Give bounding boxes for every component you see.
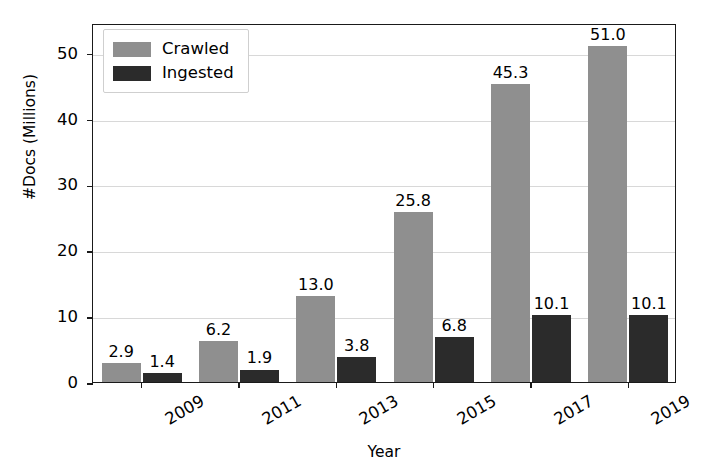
- y-tick-label: 10: [57, 309, 78, 326]
- legend-swatch-ingested: [113, 66, 151, 81]
- x-tick-mark: [141, 382, 143, 388]
- y-tick-mark: [87, 186, 93, 188]
- bar-value-label: 3.8: [324, 338, 389, 354]
- bar-ingested-2015: [435, 337, 474, 382]
- x-tick-label: 2013: [357, 393, 402, 428]
- x-axis-label: Year: [92, 443, 676, 461]
- x-tick-mark: [433, 382, 435, 388]
- bar-value-label: 25.8: [381, 193, 446, 209]
- x-tick-label: 2017: [552, 393, 597, 428]
- bar-ingested-2017: [532, 315, 571, 382]
- chart-legend: Crawled Ingested: [103, 29, 249, 93]
- legend-label-crawled: Crawled: [162, 41, 229, 58]
- bar-ingested-2019: [629, 315, 668, 382]
- bar-ingested-2009: [143, 373, 182, 382]
- bar-value-label: 1.9: [227, 350, 292, 366]
- y-tick-mark: [87, 251, 93, 253]
- bar-value-label: 1.4: [130, 354, 195, 370]
- legend-label-ingested: Ingested: [162, 65, 234, 82]
- x-tick-label: 2015: [454, 393, 499, 428]
- x-tick-mark: [628, 382, 630, 388]
- y-tick-label: 20: [57, 243, 78, 260]
- x-tick-mark: [530, 382, 532, 388]
- bar-crawled-2015: [394, 212, 433, 382]
- bar-value-label: 51.0: [575, 27, 640, 43]
- bar-value-label: 10.1: [616, 296, 681, 312]
- y-tick-mark: [87, 383, 93, 385]
- y-tick-label: 0: [68, 375, 79, 392]
- bar-crawled-2019: [588, 46, 627, 382]
- bar-value-label: 45.3: [478, 65, 543, 81]
- y-axis-tick-labels: 01020304050: [40, 24, 86, 383]
- bar-chart-figure: #Docs (Millions) 01020304050 2.91.46.21.…: [0, 0, 707, 475]
- plot-area: 2.91.46.21.913.03.825.86.845.310.151.010…: [92, 24, 676, 383]
- legend-swatch-crawled: [113, 42, 151, 57]
- x-tick-label: 2011: [260, 393, 305, 428]
- x-tick-mark: [336, 382, 338, 388]
- bar-value-label: 10.1: [519, 296, 584, 312]
- y-tick-mark: [87, 120, 93, 122]
- x-tick-mark: [238, 382, 240, 388]
- bar-value-label: 13.0: [283, 277, 348, 293]
- legend-item-crawled: Crawled: [113, 37, 234, 61]
- bar-value-label: 6.8: [422, 318, 487, 334]
- bar-value-label: 6.2: [186, 322, 251, 338]
- x-tick-label: 2009: [162, 393, 207, 428]
- bar-crawled-2017: [491, 84, 530, 382]
- y-tick-label: 30: [57, 177, 78, 194]
- y-tick-mark: [87, 317, 93, 319]
- x-tick-label: 2019: [649, 393, 694, 428]
- bar-ingested-2011: [240, 370, 279, 383]
- y-tick-label: 40: [57, 111, 78, 128]
- bar-ingested-2013: [337, 357, 376, 382]
- y-axis-label: #Docs (Millions): [21, 57, 39, 217]
- x-axis-tick-labels: 200920112013201520172019: [92, 389, 676, 439]
- y-tick-label: 50: [57, 45, 78, 62]
- legend-item-ingested: Ingested: [113, 61, 234, 85]
- y-tick-mark: [87, 54, 93, 56]
